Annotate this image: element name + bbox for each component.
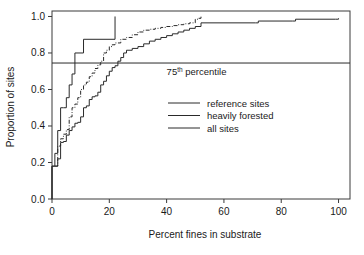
- x-tick-label: 60: [218, 206, 230, 217]
- y-axis-tick-labels: 0.00.20.40.60.81.0: [31, 11, 45, 205]
- percentile-75-number: 75: [167, 66, 178, 77]
- x-tick-label: 0: [49, 206, 55, 217]
- annotation-layer: 75th percentile: [52, 63, 350, 77]
- y-tick-label: 0.2: [31, 157, 45, 168]
- data-series-layer: [52, 16, 339, 199]
- chart-canvas: 020406080100 0.00.20.40.60.81.0 Percent …: [0, 0, 364, 255]
- legend-label-all-sites: all sites: [207, 123, 239, 134]
- percentile-75-label: 75th percentile: [167, 66, 227, 77]
- series-line-heavily-forested: [55, 16, 201, 166]
- y-tick-label: 0.8: [31, 47, 45, 58]
- y-tick-label: 1.0: [31, 11, 45, 22]
- percentile-75-tail: percentile: [183, 66, 227, 77]
- x-axis-title: Percent fines in substrate: [149, 229, 262, 240]
- x-tick-label: 20: [104, 206, 116, 217]
- x-tick-label: 100: [330, 206, 347, 217]
- x-axis-ticks: [52, 199, 339, 203]
- chart-legend: reference sitesheavily forestedall sites: [168, 98, 274, 134]
- y-tick-label: 0.0: [31, 194, 45, 205]
- x-tick-label: 40: [161, 206, 173, 217]
- y-tick-label: 0.4: [31, 120, 45, 131]
- x-axis-tick-labels: 020406080100: [49, 206, 347, 217]
- series-line-all-sites: [52, 18, 339, 199]
- x-tick-label: 80: [276, 206, 288, 217]
- y-axis-title: Proportion of sites: [5, 67, 16, 148]
- legend-label-reference-sites: reference sites: [207, 98, 270, 109]
- ecdf-chart-figure: 020406080100 0.00.20.40.60.81.0 Percent …: [0, 0, 364, 255]
- y-axis-ticks: [48, 16, 52, 199]
- y-tick-label: 0.6: [31, 84, 45, 95]
- legend-label-heavily-forested: heavily forested: [207, 110, 274, 121]
